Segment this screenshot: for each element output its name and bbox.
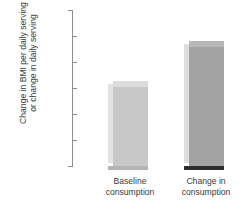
- category-label-change-line2: consumption: [161, 187, 242, 198]
- y-axis-title: Change in BMI per daily serving or chang…: [11, 0, 45, 143]
- y-tick-mark-1: [72, 140, 77, 141]
- y-tick-mark-5: [72, 36, 77, 37]
- bar-change-in-consumption: [189, 47, 224, 166]
- y-tick-mark-6: [68, 10, 73, 11]
- bar-baseline-consumption: [113, 87, 148, 166]
- y-tick-mark-2: [72, 114, 77, 115]
- bar-change-base-shadow: [184, 166, 224, 170]
- y-tick-mark-3: [72, 88, 77, 89]
- y-tick-mark-0: [68, 166, 73, 167]
- category-label-change: Change in consumption: [161, 176, 242, 198]
- bar-baseline-front-face: [113, 87, 148, 166]
- bar-change-front-face: [189, 47, 224, 166]
- y-axis-title-line1: Change in BMI per daily serving: [18, 2, 28, 124]
- category-label-change-line1: Change in: [161, 176, 242, 187]
- y-tick-mark-4: [72, 62, 77, 63]
- bar-baseline-base-shadow: [108, 166, 148, 170]
- bar-chart: Change in BMI per daily serving or chang…: [0, 0, 242, 209]
- y-axis-title-line2: or change in daily serving: [28, 14, 38, 111]
